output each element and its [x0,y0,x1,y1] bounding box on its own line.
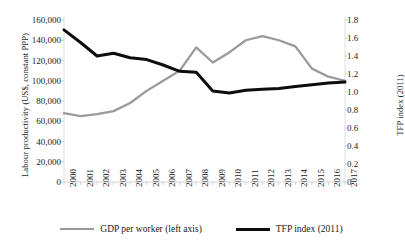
legend-item[interactable]: GDP per worker (left axis) [60,224,201,234]
legend-line-swatch-icon [236,228,270,231]
legend-item[interactable]: TFP index (2011) [236,224,343,234]
legend-line-swatch-icon [60,228,94,230]
series-line-gdp [64,36,345,116]
legend-item-label: GDP per worker (left axis) [100,224,201,234]
chart-legend: GDP per worker (left axis)TFP index (201… [0,224,403,234]
legend-item-label: TFP index (2011) [276,224,343,234]
series-line-tfp [64,30,345,93]
